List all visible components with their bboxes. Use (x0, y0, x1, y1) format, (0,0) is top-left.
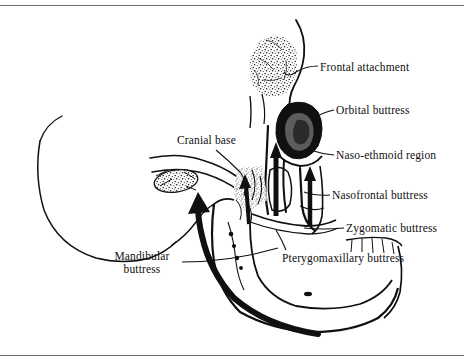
label-mandibular-buttress-line1: Mandibular (114, 250, 169, 262)
leader-lines (182, 66, 344, 262)
leader-cranial-base (216, 150, 240, 172)
frontal-attachment-stipple (245, 30, 305, 102)
leader-naso-ethmoid (310, 150, 334, 155)
leader-pterygomaxillary (276, 230, 286, 250)
label-pterygomaxillary-buttress: Pterygomaxillary buttress (282, 252, 404, 265)
label-orbital-buttress: Orbital buttress (336, 104, 410, 117)
label-nasofrontal-buttress: Nasofrontal buttress (332, 189, 428, 202)
label-frontal-attachment: Frontal attachment (320, 61, 409, 74)
leader-zygomatic (304, 228, 344, 229)
skull-illustration (0, 0, 464, 362)
label-naso-ethmoid-region: Naso-ethmoid region (336, 149, 436, 162)
leader-mandibular (182, 248, 278, 262)
label-cranial-base: Cranial base (177, 134, 236, 147)
label-mandibular-buttress: Mandibular buttress (104, 250, 180, 276)
label-mandibular-buttress-line2: buttress (124, 263, 161, 275)
label-zygomatic-buttress: Zygomatic buttress (346, 222, 437, 235)
figure-panel: Frontal attachment Orbital buttress Naso… (0, 0, 464, 362)
